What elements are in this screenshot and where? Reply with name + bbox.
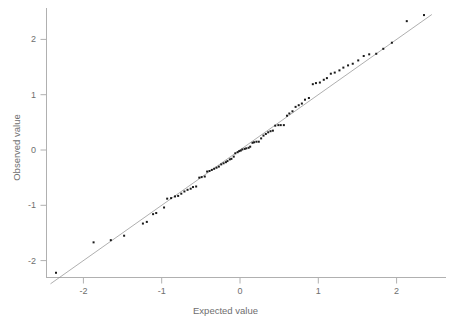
data-point <box>123 235 125 237</box>
data-point <box>265 133 267 135</box>
data-point <box>298 104 300 106</box>
data-point <box>342 67 344 69</box>
data-point <box>301 103 303 105</box>
qq-plot-figure: -2-1012 -2-1012 Expected value Observed … <box>0 0 451 326</box>
data-point <box>220 163 222 165</box>
data-point <box>152 213 154 215</box>
data-point <box>291 110 293 112</box>
data-point <box>204 176 206 178</box>
data-point <box>274 125 276 127</box>
reference-line <box>51 15 432 284</box>
data-point <box>216 167 218 169</box>
data-point <box>326 77 328 79</box>
x-tick-label: 2 <box>394 286 399 296</box>
data-point <box>347 64 349 66</box>
data-points <box>55 14 425 274</box>
data-point <box>277 124 279 126</box>
data-point <box>249 146 251 148</box>
data-point <box>295 106 297 108</box>
data-point <box>245 147 247 149</box>
data-point <box>352 63 354 65</box>
data-point <box>142 223 144 225</box>
data-point <box>155 212 157 214</box>
data-point <box>255 141 257 143</box>
data-point <box>338 69 340 71</box>
data-point <box>110 239 112 241</box>
axis-lines <box>46 8 446 278</box>
data-point <box>146 221 148 223</box>
data-point <box>190 188 192 190</box>
data-point <box>323 79 325 81</box>
data-point <box>226 160 228 162</box>
data-point <box>368 53 370 55</box>
data-point <box>262 135 264 137</box>
data-point <box>192 186 194 188</box>
data-point <box>423 14 425 16</box>
data-point <box>315 82 317 84</box>
reference-line-segment <box>51 15 432 284</box>
data-point <box>286 115 288 117</box>
data-point <box>357 59 359 61</box>
y-tick-label: 2 <box>18 34 36 44</box>
x-axis-ticks <box>83 278 396 284</box>
data-point <box>218 166 220 168</box>
data-point <box>233 156 235 158</box>
x-axis-title: Expected value <box>0 305 451 316</box>
data-point <box>363 55 365 57</box>
data-point <box>280 124 282 126</box>
data-point <box>213 168 215 170</box>
data-point <box>223 162 225 164</box>
data-point <box>180 193 182 195</box>
data-point <box>283 124 285 126</box>
data-point <box>312 83 314 85</box>
data-point <box>55 272 57 274</box>
data-point <box>406 20 408 22</box>
data-point <box>195 186 197 188</box>
data-point <box>187 189 189 191</box>
data-point <box>241 148 243 150</box>
data-point <box>267 131 269 133</box>
x-tick-label: -1 <box>158 286 166 296</box>
y-axis-ticks <box>41 39 47 260</box>
data-point <box>230 158 232 160</box>
data-point <box>272 130 274 132</box>
data-point <box>334 72 336 74</box>
data-point <box>375 53 377 55</box>
y-tick-label: -2 <box>18 256 36 266</box>
x-tick-label: 0 <box>237 286 242 296</box>
data-point <box>93 241 95 243</box>
data-point <box>253 141 255 143</box>
data-point <box>174 195 176 197</box>
data-point <box>170 197 172 199</box>
data-point <box>208 170 210 172</box>
data-point <box>201 176 203 178</box>
data-point <box>198 177 200 179</box>
x-tick-label: -2 <box>79 286 87 296</box>
data-point <box>391 42 393 44</box>
chart-canvas <box>0 0 451 326</box>
data-point <box>206 171 208 173</box>
data-point <box>330 73 332 75</box>
data-point <box>258 141 260 143</box>
data-point <box>211 169 213 171</box>
data-point <box>166 198 168 200</box>
data-point <box>183 190 185 192</box>
data-point <box>260 137 262 139</box>
data-point <box>319 82 321 84</box>
data-point <box>177 195 179 197</box>
data-point <box>270 130 272 132</box>
data-point <box>163 207 165 209</box>
data-point <box>288 113 290 115</box>
data-point <box>308 97 310 99</box>
data-point <box>382 48 384 50</box>
y-axis-title: Observed value <box>11 78 22 218</box>
data-point <box>234 152 236 154</box>
x-tick-label: 1 <box>316 286 321 296</box>
data-point <box>304 99 306 101</box>
